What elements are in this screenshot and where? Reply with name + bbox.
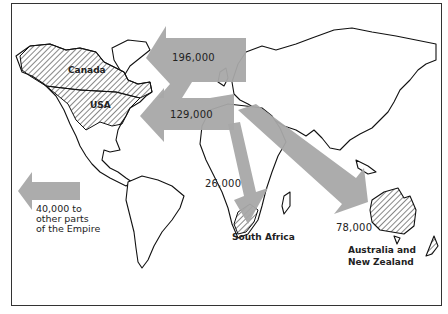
- indonesia: [356, 160, 376, 174]
- flow-value-australia: 78,000: [336, 222, 372, 233]
- new-zealand: [426, 236, 438, 256]
- label-usa: USA: [90, 100, 111, 111]
- other-caption-line3: of the Empire: [36, 223, 100, 234]
- label-south-africa: South Africa: [232, 232, 295, 243]
- tasmania: [394, 236, 400, 244]
- australia: [370, 188, 416, 234]
- flow-value-south-africa: 26,000: [205, 178, 241, 189]
- south-america: [126, 176, 184, 268]
- flow-value-usa: 129,000: [170, 109, 213, 120]
- label-australia-line2: New Zealand: [348, 257, 414, 268]
- label-australia-line1: Australia and: [348, 245, 416, 256]
- madagascar: [282, 192, 290, 214]
- flow-value-canada: 196,000: [172, 52, 215, 63]
- label-canada: Canada: [68, 65, 106, 76]
